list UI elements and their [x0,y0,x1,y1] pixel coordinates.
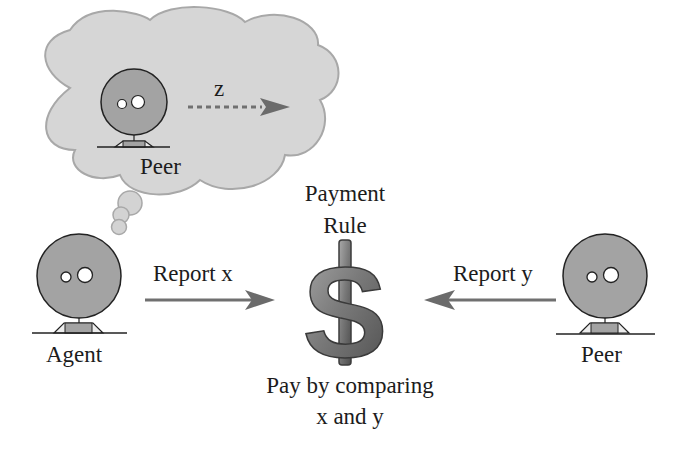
signal-z-label: z [214,77,224,100]
report-y-label: Report y [453,262,533,285]
peer-label: Peer [581,343,622,366]
svg-text:S: S [302,241,387,384]
dollar-sign-icon: S [302,240,387,384]
report-x-label: Report x [153,262,233,285]
report-x-arrow [145,290,275,310]
payment-rule-title-line1: Payment [290,182,400,205]
thought-bubble-dot [112,220,127,235]
payment-caption-line1: Pay by comparing [260,374,440,397]
report-y-arrow [424,290,556,310]
peer-figure [556,234,655,334]
payment-rule-title-line2: Rule [290,214,400,237]
payment-caption-line2: x and y [260,405,440,428]
agent-label: Agent [46,343,102,366]
agent-figure [32,234,127,333]
thought-peer-label: Peer [140,155,181,178]
